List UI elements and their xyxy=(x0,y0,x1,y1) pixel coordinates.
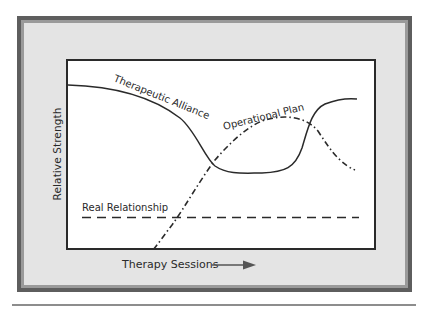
bottom-separator xyxy=(12,304,416,306)
therapeutic-alliance-label: Therapeutic Alliance xyxy=(111,72,211,121)
x-axis-arrow-icon xyxy=(212,261,256,270)
therapeutic-alliance-line xyxy=(67,85,357,173)
operational-plan-line xyxy=(133,117,355,267)
real-relationship-label: Real Relationship xyxy=(82,202,168,213)
chart-curves: Therapeutic Alliance Operational Plan Re… xyxy=(0,0,430,311)
operational-plan-label: Operational Plan xyxy=(222,101,305,132)
